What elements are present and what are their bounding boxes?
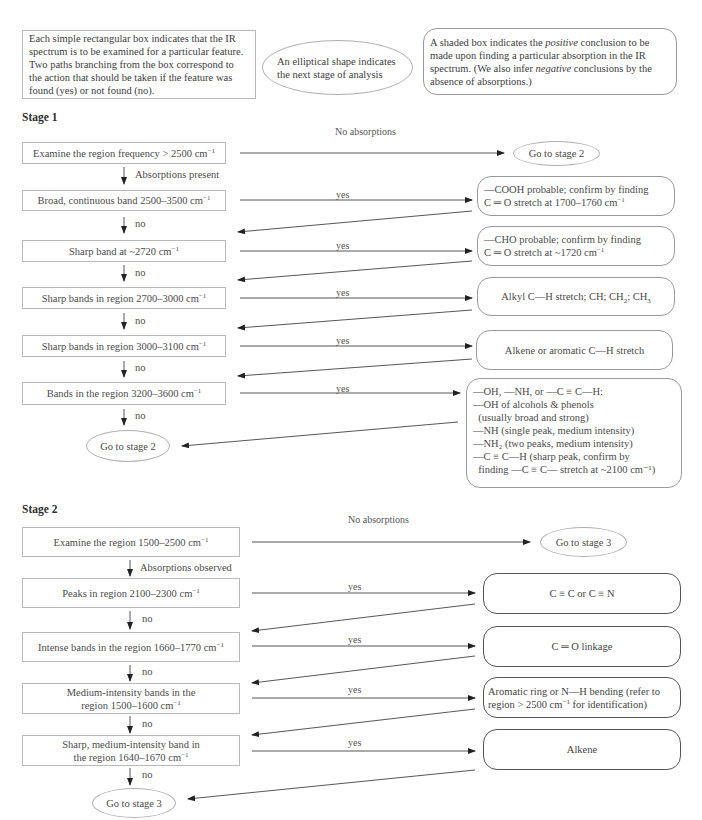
stage1-result-alkene-aromatic: Alkene or aromatic C—H stretch <box>476 330 673 370</box>
stage2-title: Stage 2 <box>22 503 57 515</box>
legend-shaded-text: A shaded box indicates the positive conc… <box>430 36 670 88</box>
stage1-result-cho: —CHO probable; confirm by findingC ═ O s… <box>477 226 675 266</box>
legend-rect-text: Each simple rectangular box indicates th… <box>29 32 249 97</box>
stage2-result-aromatic-nh: Aromatic ring or N—H bending (refer tore… <box>483 677 681 718</box>
stage1-no-label-2: no <box>135 267 146 278</box>
stage2-absorptions-observed-label: Absorptions observed <box>140 562 232 573</box>
stage2-yes-label-3: yes <box>348 684 361 695</box>
stage2-goto-stage3-top: Go to stage 3 <box>540 527 627 557</box>
oh-line-7: finding —C ≡ C— stretch at ~2100 cm⁻¹) <box>473 463 655 476</box>
stage1-check-1: Examine the region frequency > 2500 cm−1 <box>22 142 226 164</box>
stage1-absorptions-present-label: Absorptions present <box>135 169 219 180</box>
stage1-result-alkyl: Alkyl C—H stretch; CH; CH2; CH3 <box>477 277 675 316</box>
stage1-title: Stage 1 <box>22 111 57 123</box>
stage1-yes-label-4: yes <box>336 335 349 346</box>
stage2-no-absorptions-label: No absorptions <box>348 514 409 525</box>
stage1-yes-label-5: yes <box>336 383 349 394</box>
oh-line-4: —NH (single peak, medium intensity) <box>473 424 655 437</box>
stage1-goto-stage2-bottom: Go to stage 2 <box>86 430 170 462</box>
stage1-no-label-4: no <box>135 362 146 373</box>
stage1-result-oh-nh-alkyne: —OH, —NH, or —C ≡ C—H: —OH of alcohols &… <box>466 378 682 488</box>
stage2-check-2: Peaks in region 2100–2300 cm−1 <box>22 578 240 608</box>
legend-rect-box: Each simple rectangular box indicates th… <box>22 30 256 99</box>
stage2-yes-label-1: yes <box>348 581 361 592</box>
stage2-no-label-1: no <box>142 613 153 624</box>
stage2-no-label-2: no <box>142 666 153 677</box>
stage1-yes-label-2: yes <box>336 240 349 251</box>
stage2-yes-label-4: yes <box>348 737 361 748</box>
oh-line-6: —C ≡ C—H (sharp peak, confirm by <box>473 450 655 463</box>
stage1-result-cooh: —COOH probable; confirm by findingC ═ O … <box>477 176 675 216</box>
stage1-check-4: Sharp bands in region 2700–3000 cm−1 <box>22 287 226 309</box>
stage1-no-label-5: no <box>135 410 146 421</box>
stage1-yes-label-3: yes <box>336 287 349 298</box>
stage2-check-5: Sharp, medium-intensity band inthe regio… <box>22 735 240 766</box>
stage2-check-1: Examine the region 1500–2500 cm−1 <box>22 527 240 557</box>
stage1-check-5: Sharp bands in region 3000–3100 cm−1 <box>22 335 226 357</box>
oh-line-1: —OH, —NH, or —C ≡ C—H: <box>473 385 655 398</box>
oh-line-3: (usually broad and strong) <box>473 411 655 424</box>
stage1-yes-label-1: yes <box>336 189 349 200</box>
oh-line-5: —NH₂ (two peaks, medium intensity) <box>473 437 655 450</box>
stage1-check-2: Broad, continuous band 2500–3500 cm−1 <box>22 190 226 211</box>
stage2-yes-label-2: yes <box>348 634 361 645</box>
stage1-check-3: Sharp band at ~2720 cm−1 <box>22 240 226 262</box>
stage2-check-3: Intense bands in the region 1660–1770 cm… <box>22 632 240 662</box>
stage2-no-label-3: no <box>142 718 153 729</box>
oh-line-2: —OH of alcohols & phenols <box>473 398 655 411</box>
legend-shaded-box: A shaded box indicates the positive conc… <box>423 28 677 95</box>
legend-ellipse: An elliptical shape indicates the next s… <box>262 40 413 95</box>
stage1-check-6: Bands in the region 3200–3600 cm−1 <box>22 382 226 405</box>
stage2-result-alkene: Alkene <box>483 729 681 770</box>
stage2-result-triple-bond: C ≡ C or C ≡ N <box>483 573 681 614</box>
legend-ellipse-text: An elliptical shape indicates the next s… <box>277 55 398 81</box>
stage2-no-label-4: no <box>142 769 153 780</box>
stage2-check-4: Medium-intensity bands in theregion 1500… <box>22 683 240 714</box>
stage1-no-absorptions-label: No absorptions <box>335 126 396 137</box>
stage1-goto-stage2-top: Go to stage 2 <box>513 141 600 166</box>
stage1-no-label-3: no <box>135 315 146 326</box>
stage2-result-carbonyl: C ═ O linkage <box>483 626 681 667</box>
stage1-no-label-1: no <box>135 218 146 229</box>
stage2-goto-stage3-bottom: Go to stage 3 <box>92 788 176 818</box>
